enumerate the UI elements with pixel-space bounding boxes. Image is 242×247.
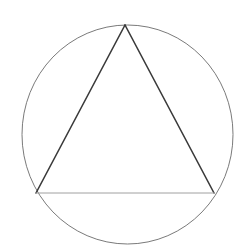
inscribed-triangle-diagram xyxy=(0,0,242,247)
triangle-right-side xyxy=(125,25,214,193)
triangle-left-side xyxy=(36,25,125,193)
circumscribed-circle xyxy=(22,25,233,244)
